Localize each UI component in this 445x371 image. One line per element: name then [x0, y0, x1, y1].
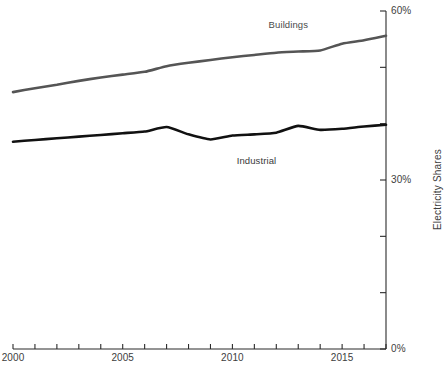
series-line-industrial	[13, 125, 386, 142]
series-label-buildings: Buildings	[269, 19, 308, 30]
series-line-buildings	[13, 36, 386, 92]
x-axis-tick-label: 2015	[312, 352, 372, 363]
x-axis-tick-label: 2005	[93, 352, 153, 363]
series-lines	[13, 36, 386, 142]
y-axis-tick-label: 30%	[391, 174, 411, 185]
x-axis-tick-label: 2010	[202, 352, 262, 363]
x-axis-ticks	[13, 344, 386, 349]
x-axis-tick-label: 2000	[0, 352, 43, 363]
series-label-industrial: Industrial	[237, 155, 277, 166]
y-axis-ticks	[380, 11, 386, 349]
y-axis-tick-label: 0%	[391, 343, 406, 354]
y-axis-tick-label: 60%	[391, 5, 411, 16]
chart-plot-area	[0, 0, 445, 371]
chart-container: 2000200520102015 0%30%60% Buildings Indu…	[0, 0, 445, 371]
y-axis-title: Electricity Shares	[432, 149, 443, 230]
